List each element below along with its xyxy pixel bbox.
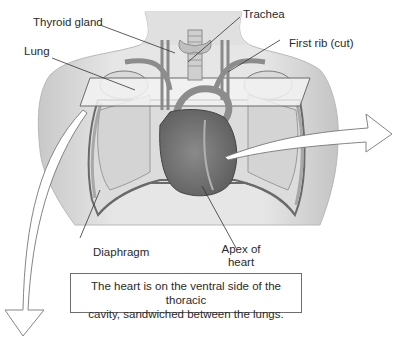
thoracic-anatomy-figure: Thyroid gland Trachea Lung First rib (cu… — [0, 0, 394, 339]
label-apex-of-heart: Apex of heart — [216, 243, 266, 269]
label-trachea: Trachea — [243, 8, 285, 21]
heart — [160, 110, 237, 196]
label-thyroid-gland: Thyroid gland — [33, 16, 103, 29]
caption-line-2: cavity, sandwiched between the lungs. — [71, 307, 301, 321]
trachea — [188, 30, 202, 80]
caption-box: The heart is on the ventral side of the … — [70, 273, 302, 313]
label-lung: Lung — [24, 45, 50, 58]
label-diaphragm: Diaphragm — [93, 246, 149, 259]
lung-left — [98, 95, 150, 190]
label-first-rib: First rib (cut) — [289, 37, 354, 50]
caption-line-1: The heart is on the ventral side of the … — [71, 279, 301, 307]
apex-line-2: heart — [216, 256, 266, 269]
apex-line-1: Apex of — [216, 243, 266, 256]
